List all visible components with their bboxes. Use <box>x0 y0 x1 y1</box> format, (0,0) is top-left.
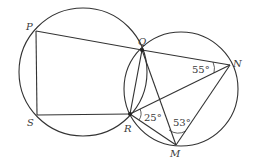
angle-arc-N <box>213 62 214 73</box>
label-N: N <box>232 58 243 69</box>
angle-label-R: 25° <box>144 112 162 123</box>
angle-label-N: 55° <box>192 64 210 75</box>
point-dot-R <box>128 112 132 116</box>
segment-PS <box>36 31 37 115</box>
angle-arc-R <box>139 109 141 120</box>
segment-QN <box>142 50 230 65</box>
label-M: M <box>169 148 181 159</box>
label-R: R <box>123 123 132 134</box>
segment-PQ <box>36 31 142 50</box>
label-P: P <box>25 21 33 32</box>
left-circle <box>19 8 147 136</box>
label-S: S <box>27 117 34 128</box>
segment-MN <box>176 65 230 145</box>
point-dot-Q <box>140 48 144 52</box>
segment-SR <box>37 114 130 115</box>
geometry-diagram: P Q N S R M 55° 25° 53° <box>0 0 256 167</box>
diagram-svg: P Q N S R M 55° 25° 53° <box>0 0 256 167</box>
angle-label-M: 53° <box>173 117 191 128</box>
label-Q: Q <box>138 36 146 47</box>
